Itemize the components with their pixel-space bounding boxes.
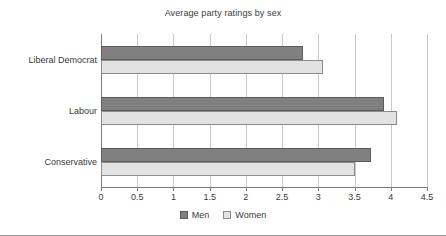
bar-group: [101, 46, 427, 74]
value-tick-label: 1.5: [203, 192, 216, 202]
bar-women-liberal-democrat: [101, 60, 323, 74]
value-tick-label: 1: [171, 192, 176, 202]
value-tick-mark: [355, 187, 356, 191]
bar-men-liberal-democrat: [101, 46, 303, 60]
bar-women-conservative: [101, 162, 355, 176]
value-tick-mark: [173, 187, 174, 191]
value-tick-mark: [282, 187, 283, 191]
value-axis-ticks: 00.511.522.533.544.5: [101, 187, 427, 207]
gridline: [427, 34, 428, 187]
bar-group: [101, 97, 427, 125]
category-label: Liberal Democrat: [0, 55, 97, 65]
value-tick-label: 3: [316, 192, 321, 202]
bar-men-conservative: [101, 148, 371, 162]
legend-swatch-icon: [223, 211, 231, 219]
category-label: Conservative: [0, 157, 97, 167]
chart-figure: Average party ratings by sex Liberal Dem…: [0, 0, 446, 236]
chart-legend: MenWomen: [0, 210, 446, 220]
value-tick-mark: [101, 187, 102, 191]
value-tick-label: 2.5: [276, 192, 289, 202]
bar-women-labour: [101, 111, 397, 125]
value-tick-label: 2: [243, 192, 248, 202]
value-tick-mark: [246, 187, 247, 191]
category-axis-labels: Liberal DemocratLabourConservative: [0, 34, 97, 187]
value-tick-label: 3.5: [348, 192, 361, 202]
value-tick-mark: [427, 187, 428, 191]
value-tick-mark: [318, 187, 319, 191]
legend-entry-women: Women: [223, 210, 266, 220]
category-label: Labour: [0, 106, 97, 116]
value-tick-label: 4: [388, 192, 393, 202]
legend-label: Men: [192, 210, 210, 220]
chart-title: Average party ratings by sex: [0, 8, 446, 18]
bar-men-labour: [101, 97, 384, 111]
value-tick-label: 0: [98, 192, 103, 202]
plot-area: [101, 34, 427, 187]
legend-entry-men: Men: [180, 210, 210, 220]
legend-swatch-icon: [180, 211, 188, 219]
value-tick-mark: [137, 187, 138, 191]
value-tick-label: 0.5: [131, 192, 144, 202]
bars-layer: [101, 34, 427, 187]
value-tick-label: 4.5: [421, 192, 434, 202]
value-tick-mark: [210, 187, 211, 191]
legend-label: Women: [235, 210, 266, 220]
bar-group: [101, 148, 427, 176]
value-tick-mark: [391, 187, 392, 191]
